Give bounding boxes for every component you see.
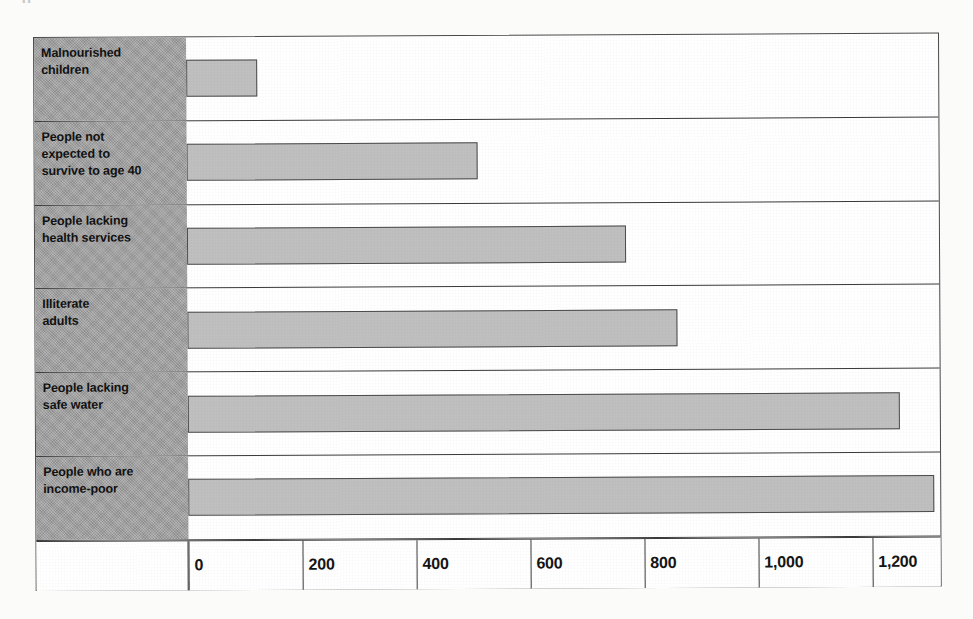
page-top-cutoff-text: g bbox=[22, 0, 32, 3]
bar-track bbox=[187, 201, 939, 287]
category-label-line: survive to age 40 bbox=[42, 162, 181, 180]
chart-row: People who areincome-poor bbox=[36, 453, 940, 541]
x-tick-label: 800 bbox=[644, 539, 676, 588]
chart-row: Malnourishedchildren bbox=[34, 34, 938, 122]
category-label: Malnourishedchildren bbox=[34, 37, 186, 121]
bar-track bbox=[187, 285, 939, 371]
chart-row: People lackingsafe water bbox=[36, 369, 940, 457]
category-label-line: People lacking bbox=[43, 379, 182, 397]
chart-row: People notexpected tosurvive to age 40 bbox=[34, 117, 938, 205]
bar bbox=[188, 392, 900, 432]
category-label-line: People lacking bbox=[42, 212, 181, 230]
bar-track bbox=[188, 453, 940, 539]
bar-track bbox=[188, 369, 940, 455]
bar bbox=[187, 143, 478, 181]
x-tick-label: 0 bbox=[188, 541, 203, 590]
category-label-line: health services bbox=[42, 229, 181, 247]
chart-row: Illiterateadults bbox=[35, 285, 939, 373]
category-label-line: Illiterate bbox=[42, 296, 181, 314]
bar bbox=[188, 475, 934, 516]
category-label-line: safe water bbox=[43, 396, 182, 414]
bar-track bbox=[186, 34, 938, 120]
category-label: People lackingsafe water bbox=[36, 372, 188, 456]
category-label: People who areincome-poor bbox=[36, 456, 188, 540]
x-tick-label: 1,000 bbox=[758, 538, 803, 587]
axis-label-gutter bbox=[36, 541, 188, 591]
bar-chart: MalnourishedchildrenPeople notexpected t… bbox=[33, 33, 942, 591]
x-tick-label: 600 bbox=[530, 539, 562, 588]
category-label-line: children bbox=[41, 61, 180, 79]
x-axis: 02004006008001,0001,200 bbox=[36, 537, 940, 591]
category-label: People notexpected tosurvive to age 40 bbox=[34, 121, 186, 205]
category-label: Illiterateadults bbox=[35, 289, 187, 373]
category-label-line: adults bbox=[42, 313, 181, 331]
category-label-line: expected to bbox=[42, 145, 181, 163]
bar bbox=[187, 309, 677, 348]
category-label-line: People not bbox=[41, 128, 180, 146]
bar-track bbox=[186, 117, 938, 203]
x-tick-label: 200 bbox=[302, 541, 334, 590]
bar bbox=[187, 226, 626, 265]
x-tick-label: 400 bbox=[416, 540, 448, 589]
x-tick-label: 1,200 bbox=[872, 538, 917, 587]
bar bbox=[186, 60, 257, 97]
chart-row: People lackinghealth services bbox=[35, 201, 939, 289]
category-label: People lackinghealth services bbox=[35, 205, 187, 289]
category-label-line: People who are bbox=[43, 463, 182, 481]
category-label-line: income-poor bbox=[43, 480, 182, 498]
category-label-line: Malnourished bbox=[41, 44, 180, 62]
plot-area: MalnourishedchildrenPeople notexpected t… bbox=[34, 34, 940, 541]
